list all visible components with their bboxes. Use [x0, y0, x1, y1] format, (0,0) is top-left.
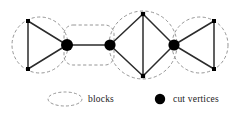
vertex-v6 [212, 67, 216, 71]
vertex-v1 [26, 19, 30, 23]
figure-root: blocks cut vertices [0, 0, 243, 113]
vertex-v4 [141, 74, 145, 78]
blocks-and-cut-vertices-diagram: blocks cut vertices [0, 0, 243, 113]
legend-blocks-label: blocks [88, 94, 114, 104]
cut-vertex-c3 [168, 39, 179, 50]
legend-cut-vertices-label: cut vertices [173, 94, 219, 104]
cut-vertex-c1 [61, 39, 73, 51]
cut-vertex-c2 [104, 39, 115, 50]
legend-cut-vertex-dot-icon [155, 94, 165, 104]
vertex-v5 [212, 19, 216, 23]
vertex-v3 [141, 12, 145, 16]
vertex-v2 [26, 67, 30, 71]
